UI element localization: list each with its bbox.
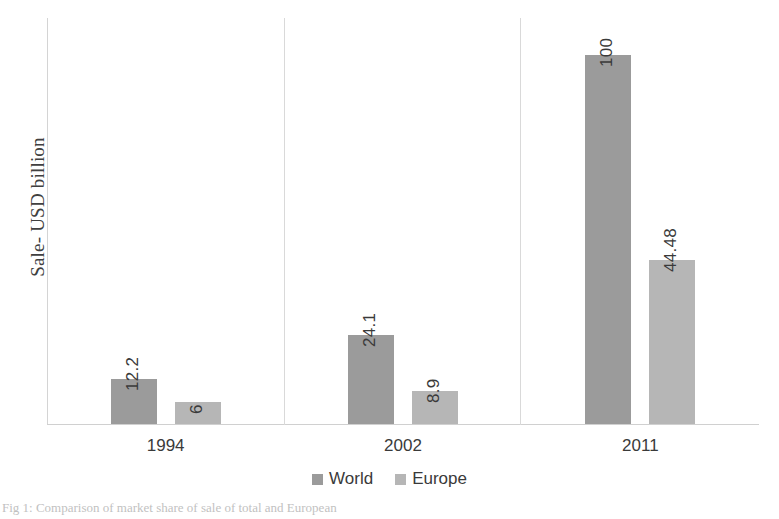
bar-value-label-world-2011: 100 [597, 38, 617, 67]
bar-value-label-world-2002: 24.1 [360, 313, 380, 347]
figure-caption: Fig 1: Comparison of market share of sal… [2, 500, 777, 516]
bar-europe-2011 [649, 260, 695, 424]
x-axis-line [47, 424, 759, 425]
legend-item-europe[interactable]: Europe [395, 469, 467, 489]
legend-item-world[interactable]: World [312, 469, 373, 489]
y-axis-title: Sale- USD billion [27, 107, 49, 307]
plot-area: 12.2624.18.910044.48 [47, 18, 759, 424]
x-axis-label-2011: 2011 [522, 436, 759, 456]
chart-legend: WorldEurope [0, 469, 779, 489]
legend-swatch-icon-world [312, 474, 323, 485]
bar-value-label-europe-2002: 8.9 [424, 379, 444, 404]
bar-chart: Sale- USD billion 12.2624.18.910044.48 1… [0, 0, 779, 519]
bar-value-label-europe-1994: 6 [187, 404, 207, 414]
legend-label-europe: Europe [412, 469, 467, 489]
legend-label-world: World [329, 469, 373, 489]
x-axis-label-1994: 1994 [47, 436, 284, 456]
x-axis-label-2002: 2002 [284, 436, 521, 456]
bar-value-label-world-1994: 12.2 [123, 357, 143, 391]
bar-world-2011 [585, 55, 631, 424]
legend-swatch-icon-europe [395, 474, 406, 485]
bar-world-2002 [348, 335, 394, 424]
bar-value-label-europe-2011: 44.48 [661, 228, 681, 272]
